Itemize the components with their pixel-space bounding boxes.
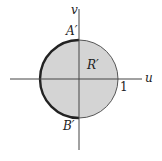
point-b-prime-label: B′	[63, 120, 75, 132]
unit-tick-label: 1	[120, 81, 128, 93]
point-a-prime-label: A′	[66, 25, 77, 37]
v-axis-label: v	[71, 4, 78, 16]
diagram-graphics	[0, 0, 162, 161]
u-axis-label: u	[145, 72, 153, 84]
region-label: R′	[87, 59, 99, 71]
diagram-canvas: v u A′ B′ R′ 1	[0, 0, 162, 161]
